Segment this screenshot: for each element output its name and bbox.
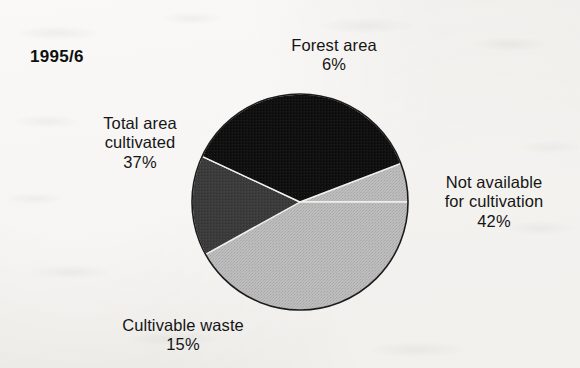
pie-slices bbox=[192, 94, 408, 310]
slice-label-total-area-cultivated-text2: cultivated bbox=[70, 133, 210, 152]
slice-label-forest-area: Forest area 6% bbox=[268, 36, 400, 75]
slice-label-cultivable-waste-value: 15% bbox=[88, 335, 278, 354]
slice-label-not-available-text1: Not available bbox=[418, 173, 570, 192]
slice-label-forest-area-value: 6% bbox=[268, 55, 400, 74]
slice-label-total-area-cultivated-text1: Total area bbox=[70, 114, 210, 133]
slice-label-total-area-cultivated: Total area cultivated 37% bbox=[70, 114, 210, 172]
chart-page: 1995/6 Forest area 6% Total area cultiva… bbox=[0, 0, 580, 368]
slice-label-not-available-for-cultivation: Not available for cultivation 42% bbox=[418, 173, 570, 231]
slice-label-not-available-text2: for cultivation bbox=[418, 192, 570, 211]
slice-label-cultivable-waste-text: Cultivable waste bbox=[88, 316, 278, 335]
slice-label-total-area-cultivated-value: 37% bbox=[70, 153, 210, 172]
slice-label-forest-area-text: Forest area bbox=[268, 36, 400, 55]
year-label: 1995/6 bbox=[30, 47, 84, 67]
slice-label-cultivable-waste: Cultivable waste 15% bbox=[88, 316, 278, 355]
slice-label-not-available-value: 42% bbox=[418, 212, 570, 231]
